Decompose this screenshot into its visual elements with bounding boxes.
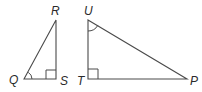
angle-u-arc-mark — [88, 25, 98, 31]
triangle-utp-outline — [88, 20, 187, 79]
vertex-label-s: S — [60, 74, 68, 88]
triangle-qrs: R Q S — [9, 4, 68, 88]
vertex-label-p: P — [190, 74, 198, 88]
vertex-label-u: U — [84, 4, 93, 18]
similar-triangles-diagram: R Q S U T P — [0, 0, 202, 92]
triangle-utp: U T P — [77, 4, 198, 88]
vertex-label-q: Q — [9, 73, 18, 87]
angle-q-arc-mark — [28, 72, 32, 79]
vertex-label-t: T — [77, 74, 86, 88]
right-angle-s-mark — [46, 70, 56, 79]
right-angle-t-mark — [88, 69, 98, 79]
vertex-label-r: R — [51, 4, 60, 18]
